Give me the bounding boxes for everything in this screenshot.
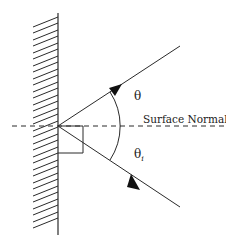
incident-angle-symbol: θ <box>134 147 141 161</box>
reflected-angle-label: θ <box>134 89 141 103</box>
incident-angle-subscript: i <box>141 154 144 163</box>
surface-normal-label: Surface Normal <box>143 113 226 125</box>
reflection-diagram: θ θi Surface Normal <box>0 0 226 251</box>
incident-angle-label: θi <box>134 147 144 163</box>
surface-hatching <box>33 17 58 228</box>
right-angle-marker <box>58 126 83 153</box>
